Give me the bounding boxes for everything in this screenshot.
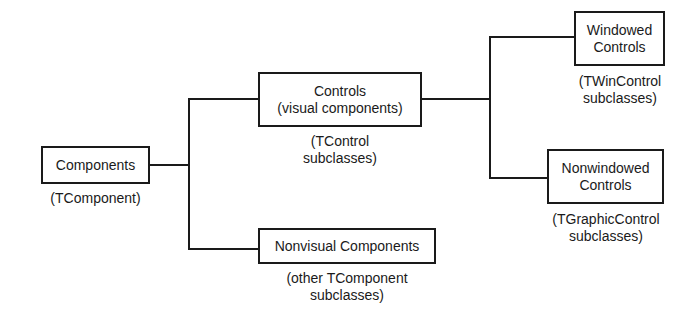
node-nonvisual-caption: (other TComponent subclasses): [262, 270, 432, 304]
connector-right-vertical: [489, 36, 491, 179]
node-components: Components: [41, 146, 150, 184]
node-windowed: Windowed Controls: [574, 11, 665, 66]
node-components-caption: (TComponent): [30, 190, 161, 207]
node-nonvisual-label: Nonvisual Components: [275, 238, 420, 255]
connector-left-vertical: [188, 98, 190, 250]
node-nonvisual: Nonvisual Components: [258, 228, 436, 264]
connector-to-nonwindowed: [489, 177, 548, 179]
connector-to-controls: [188, 98, 259, 100]
node-controls-label-line2: (visual components): [277, 100, 402, 117]
connector-components-trunk: [150, 164, 190, 166]
connector-to-nonvisual: [188, 248, 259, 250]
connector-to-windowed: [489, 36, 575, 38]
node-controls-caption: (TControl subclasses): [270, 133, 410, 167]
node-nonwindowed-caption: (TGraphicControl subclasses): [540, 211, 672, 245]
connector-controls-trunk: [420, 98, 491, 100]
node-nonwindowed: Nonwindowed Controls: [547, 149, 664, 204]
node-controls: Controls (visual components): [258, 72, 422, 127]
node-nonwindowed-label-line2: Controls: [579, 177, 631, 194]
node-components-label: Components: [56, 157, 135, 174]
node-controls-label-line1: Controls: [314, 83, 366, 100]
node-windowed-caption: (TWinControl subclasses): [560, 73, 680, 107]
node-windowed-label-line1: Windowed: [587, 22, 652, 39]
node-windowed-label-line2: Controls: [593, 39, 645, 56]
node-nonwindowed-label-line1: Nonwindowed: [562, 160, 650, 177]
